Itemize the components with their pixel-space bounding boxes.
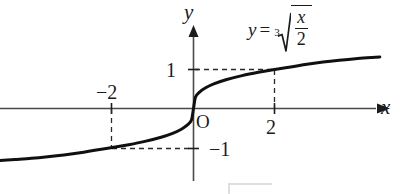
radical-index: 3 <box>274 26 280 38</box>
radicand-fraction: x 2 <box>291 5 312 50</box>
x-axis-label: x <box>381 97 390 118</box>
x-tick-label-2: 2 <box>266 117 276 137</box>
y-axis-label: y <box>184 2 193 23</box>
equation-left-side: y <box>248 19 256 41</box>
radical-expression: 3 x 2 <box>272 8 312 52</box>
plot-canvas <box>0 0 400 194</box>
fraction-numerator: x <box>295 7 307 27</box>
equation-equals-sign: = <box>259 19 270 41</box>
function-curve <box>0 57 380 162</box>
equation-annotation: y = 3 x 2 <box>248 8 312 52</box>
y-axis-arrowhead <box>189 25 199 37</box>
origin-label: O <box>196 112 210 131</box>
y-tick-label-negative-1: −1 <box>209 139 230 159</box>
y-tick-label-1: 1 <box>166 60 176 80</box>
scan-edge-artifact <box>228 183 272 194</box>
fraction-denominator: 2 <box>295 30 308 50</box>
function-graph-figure: y x 1 −1 −2 2 O y = 3 x 2 <box>0 0 400 194</box>
x-tick-label-negative-2: −2 <box>96 82 117 102</box>
